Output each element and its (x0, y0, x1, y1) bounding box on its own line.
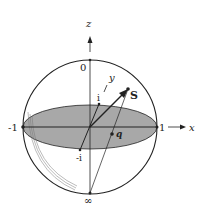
label-minus-i: -i (76, 153, 82, 163)
point-q (110, 132, 114, 136)
point-north (89, 59, 92, 62)
label-north: 0 (80, 62, 86, 73)
x-arrowhead-icon (180, 125, 186, 130)
label-right: 1 (159, 122, 165, 133)
label-q: q (116, 129, 122, 139)
y-axis-dash (104, 85, 107, 92)
label-s: S (130, 89, 138, 102)
point-left (21, 125, 25, 129)
x-axis-label: x (189, 122, 195, 133)
z-arrowhead-icon (88, 36, 93, 43)
label-i: i (97, 93, 100, 103)
z-axis-label: z (85, 18, 92, 29)
y-axis-label: y (108, 72, 115, 83)
label-left: -1 (8, 122, 18, 133)
riemann-sphere-diagram: z x y 0 ∞ -1 1 i -i S q (0, 0, 204, 205)
point-minus-i (79, 149, 82, 152)
point-i (98, 103, 101, 106)
label-south: ∞ (84, 195, 92, 205)
